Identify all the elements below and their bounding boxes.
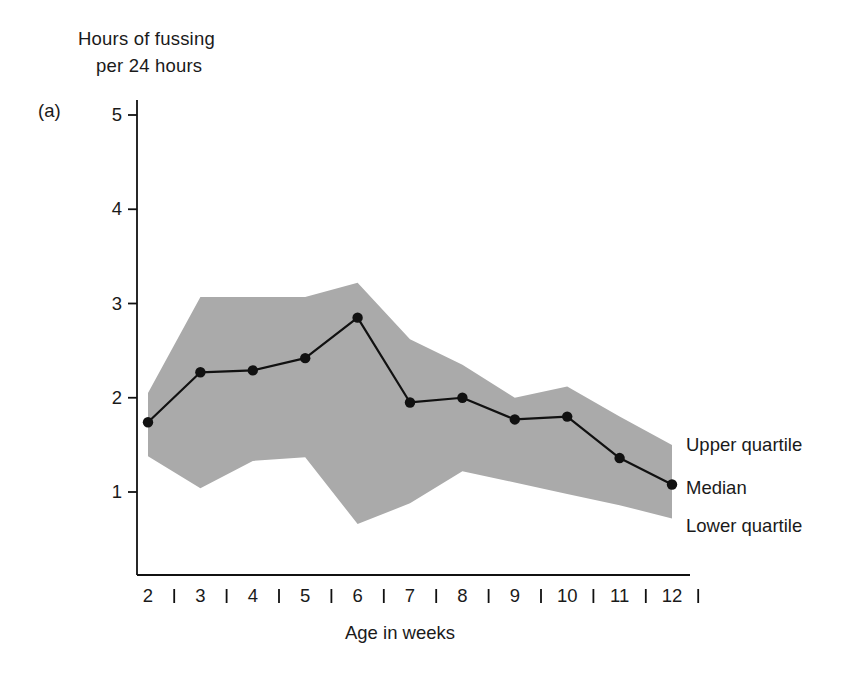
y-tick-label: 4 <box>96 198 122 220</box>
x-tick-label: 6 <box>352 585 362 607</box>
median-data-point <box>562 411 572 421</box>
median-data-point <box>614 453 624 463</box>
x-tick-label: 5 <box>300 585 310 607</box>
y-tick-label: 2 <box>96 387 122 409</box>
plot-area <box>0 0 858 687</box>
x-tick-label: 2 <box>143 585 153 607</box>
median-data-point <box>405 397 415 407</box>
y-tick-label: 5 <box>96 104 122 126</box>
median-data-point <box>300 353 310 363</box>
x-tick-label: 12 <box>662 585 683 607</box>
median-data-point <box>248 365 258 375</box>
x-tick-label: 3 <box>195 585 205 607</box>
x-tick-label: 10 <box>557 585 578 607</box>
fussing-chart-figure: Hours of fussing per 24 hours (a) 12345 … <box>0 0 858 687</box>
x-axis-title: Age in weeks <box>0 622 800 644</box>
median-data-point <box>457 393 467 403</box>
median-data-point <box>195 367 205 377</box>
legend-upper-quartile: Upper quartile <box>686 434 802 456</box>
legend-lower-quartile: Lower quartile <box>686 515 802 537</box>
panel-label: (a) <box>38 100 61 122</box>
x-tick-label: 8 <box>457 585 467 607</box>
median-data-point <box>143 417 153 427</box>
median-data-point <box>352 312 362 322</box>
y-tick-label: 3 <box>96 293 122 315</box>
legend-median: Median <box>686 477 747 499</box>
x-tick-label: 11 <box>610 585 629 607</box>
y-axis-title-line2: per 24 hours <box>96 55 202 77</box>
x-tick-label: 4 <box>248 585 258 607</box>
median-data-point <box>667 479 677 489</box>
y-axis-title-line1: Hours of fussing <box>78 28 215 50</box>
median-data-point <box>510 414 520 424</box>
x-tick-label: 7 <box>405 585 415 607</box>
y-tick-label: 1 <box>96 481 122 503</box>
x-tick-label: 9 <box>510 585 520 607</box>
